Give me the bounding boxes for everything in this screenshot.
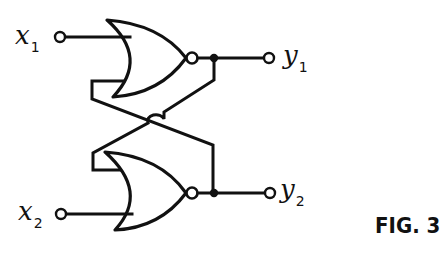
label-y2: y2 <box>280 176 305 202</box>
nor-gate-lower <box>105 152 198 230</box>
label-x2: x2 <box>18 198 43 224</box>
label-x1: x1 <box>15 22 40 48</box>
label-x2-var: x <box>18 196 33 226</box>
terminal-y2 <box>265 188 275 198</box>
junction-node-y2 <box>210 189 218 197</box>
terminal-x1 <box>55 32 65 42</box>
junction-node-y1 <box>210 54 218 62</box>
label-y1: y1 <box>283 42 308 68</box>
label-y2-sub: 2 <box>296 193 305 209</box>
figure-title: FIG. 3 <box>375 215 440 237</box>
label-x2-sub: 2 <box>34 215 43 231</box>
label-y1-sub: 1 <box>299 59 308 75</box>
or-body-upper <box>107 20 186 97</box>
inversion-bubble-lower <box>187 188 198 199</box>
label-x1-sub: 1 <box>31 39 40 55</box>
label-y1-var: y <box>283 40 298 70</box>
inversion-bubble-upper <box>187 53 198 64</box>
label-x1-var: x <box>15 20 30 50</box>
nor-gate-upper <box>107 20 198 97</box>
label-y2-var: y <box>280 174 295 204</box>
terminal-x2 <box>56 209 66 219</box>
terminal-y1 <box>264 53 274 63</box>
or-body-lower <box>105 152 186 230</box>
